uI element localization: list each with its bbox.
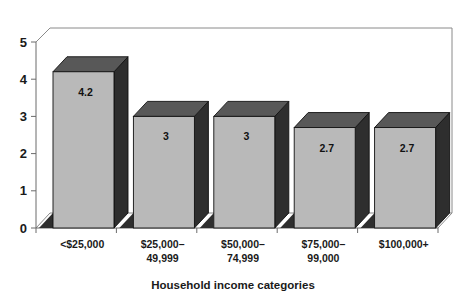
- bar-value-label: 2.7: [319, 142, 334, 154]
- bar-chart-3d: 012345 4.2332.72.7 <$25,000$25,000–49,99…: [0, 0, 466, 299]
- bar-value-label: 3: [243, 130, 249, 142]
- bar-value-label: 2.7: [400, 142, 415, 154]
- bar-side-face[interactable]: [114, 57, 128, 228]
- x-category-label: $25,000–49,999: [141, 238, 185, 264]
- bar-value-label: 3: [163, 130, 169, 142]
- x-category-label: $75,000–99,000: [302, 238, 346, 264]
- y-axis-ticks: 012345: [20, 35, 36, 236]
- y-tick-label: 5: [20, 35, 27, 50]
- x-category-label: <$25,000: [60, 238, 104, 250]
- x-category-label: $50,000–74,999: [221, 238, 265, 264]
- bar-series: [53, 57, 450, 228]
- bar-side-face[interactable]: [275, 101, 289, 228]
- x-category-label: $100,000+: [379, 238, 429, 250]
- bar-floor-shadow: [39, 213, 53, 228]
- bar-side-face[interactable]: [194, 101, 208, 228]
- y-tick-label: 1: [20, 183, 27, 198]
- depth-line-top: [36, 28, 50, 42]
- y-tick-label: 0: [20, 221, 27, 236]
- x-axis-title: Household income categories: [151, 279, 315, 291]
- bar-side-face[interactable]: [355, 113, 369, 228]
- bar-value-label: 4.2: [78, 86, 93, 98]
- y-tick-label: 2: [20, 146, 27, 161]
- y-tick-label: 3: [20, 109, 27, 124]
- x-axis-category-labels: <$25,000$25,000–49,999$50,000–74,999$75,…: [60, 238, 429, 264]
- x-axis-ticks: [36, 228, 438, 233]
- chart-container: 012345 4.2332.72.7 <$25,000$25,000–49,99…: [0, 0, 466, 299]
- bar-side-face[interactable]: [436, 113, 450, 228]
- y-tick-label: 4: [20, 72, 28, 87]
